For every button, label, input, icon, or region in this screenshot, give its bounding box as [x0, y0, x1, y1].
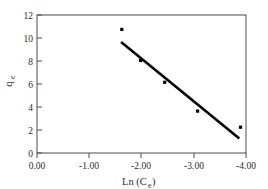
x-axis-ticks [37, 153, 246, 158]
chart-container: 12 10 8 6 4 2 0 0.00 -1.00 -2.00 -3.00 -… [0, 0, 268, 189]
plot-frame [37, 15, 246, 153]
y-axis-title-subscript: e [8, 75, 17, 79]
y-tick-label-2: 2 [28, 126, 33, 136]
y-tick-label-4: 4 [28, 103, 33, 113]
data-point [163, 81, 166, 84]
x-axis-tick-labels: 0.00 -1.00 -2.00 -3.00 -4.00 [29, 161, 256, 171]
trend-line [121, 42, 239, 139]
data-point-group [120, 28, 242, 129]
x-axis-title-main: Ln (C [122, 176, 147, 188]
data-point [196, 110, 199, 113]
y-tick-label-10: 10 [24, 34, 34, 44]
y-tick-label-12: 12 [24, 11, 34, 21]
y-axis-tick-labels: 12 10 8 6 4 2 0 [24, 11, 34, 159]
y-tick-label-6: 6 [28, 80, 33, 90]
x-axis-title-close: ) [152, 176, 156, 188]
x-tick-label-minus1: -1.00 [79, 161, 99, 171]
data-point [120, 28, 123, 31]
x-tick-label-minus2: -2.00 [131, 161, 151, 171]
x-tick-label-minus4: -4.00 [236, 161, 256, 171]
scatter-plot: 12 10 8 6 4 2 0 0.00 -1.00 -2.00 -3.00 -… [0, 0, 268, 189]
y-axis-ticks [37, 15, 42, 153]
data-point [239, 126, 242, 129]
x-tick-label-0: 0.00 [29, 161, 46, 171]
y-axis-title: q e [3, 75, 17, 87]
x-axis-title: Ln (C e ) [122, 176, 156, 189]
data-point [139, 59, 142, 62]
x-tick-label-minus3: -3.00 [184, 161, 204, 171]
y-axis-title-main: q [3, 81, 14, 87]
y-tick-label-0: 0 [28, 149, 33, 159]
y-tick-label-8: 8 [28, 57, 33, 67]
